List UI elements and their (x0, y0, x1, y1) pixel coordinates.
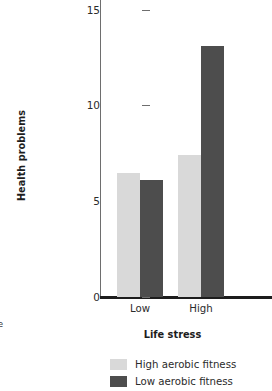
x-category-label-low: Low (110, 303, 170, 314)
x-axis-title: Life stress (100, 329, 245, 340)
y-axis-line (100, 0, 101, 298)
legend-swatch-icon-high-fitness (110, 359, 127, 370)
caption-fragment-line-1: out the (0, 318, 3, 329)
bar-high-stress-high-fitness (178, 155, 201, 297)
bar-high-stress-low-fitness (201, 46, 224, 297)
legend-item-high-aerobic-fitness: High aerobic fitness (110, 357, 272, 372)
legend-label-high-fitness: High aerobic fitness (135, 359, 236, 370)
y-tick-label-5: 5 (72, 196, 100, 207)
caption-fragment: out the s as ong duals n & (0, 318, 30, 376)
y-tick-label-15: 15 (72, 5, 100, 16)
y-tick-mark-0 (142, 297, 150, 298)
legend-item-low-aerobic-fitness: Low aerobic fitness (110, 374, 272, 389)
y-tick-mark-15 (142, 10, 150, 11)
y-tick-label-10: 10 (72, 100, 100, 111)
legend-label-low-fitness: Low aerobic fitness (135, 376, 233, 387)
chart-legend: High aerobic fitness Low aerobic fitness (110, 357, 272, 391)
y-tick-mark-10 (142, 105, 150, 106)
y-axis-title: Health problems (16, 106, 27, 206)
bar-low-stress-high-fitness (117, 173, 140, 297)
legend-swatch-icon-low-fitness (110, 376, 127, 387)
x-category-label-high: High (171, 303, 231, 314)
bar-low-stress-low-fitness (140, 180, 163, 297)
y-tick-label-0: 0 (72, 292, 100, 303)
